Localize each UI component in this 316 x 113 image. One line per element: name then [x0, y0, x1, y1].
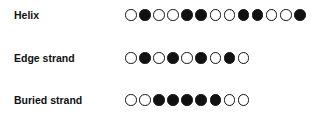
- open-circle-icon: [280, 9, 292, 21]
- open-circle-icon: [153, 9, 165, 21]
- open-circle-icon: [167, 9, 179, 21]
- filled-circle-icon: [153, 94, 165, 106]
- row-label: Edge strand: [14, 51, 75, 65]
- open-circle-icon: [224, 9, 236, 21]
- filled-circle-icon: [195, 52, 207, 64]
- open-circle-icon: [238, 94, 250, 106]
- row-helix: Helix: [0, 8, 316, 22]
- open-circle-icon: [210, 9, 222, 21]
- filled-circle-icon: [195, 9, 207, 21]
- open-circle-icon: [153, 52, 165, 64]
- filled-circle-icon: [210, 94, 222, 106]
- row-buried-strand: Buried strand: [0, 93, 316, 107]
- open-circle-icon: [181, 52, 193, 64]
- filled-circle-icon: [252, 9, 264, 21]
- open-circle-icon: [125, 94, 137, 106]
- open-circle-icon: [139, 94, 151, 106]
- filled-circle-icon: [181, 9, 193, 21]
- open-circle-icon: [238, 52, 250, 64]
- filled-circle-icon: [238, 9, 250, 21]
- residue-pattern: [125, 9, 306, 21]
- filled-circle-icon: [294, 9, 306, 21]
- open-circle-icon: [266, 9, 278, 21]
- residue-pattern: [125, 52, 249, 64]
- filled-circle-icon: [224, 52, 236, 64]
- filled-circle-icon: [181, 94, 193, 106]
- open-circle-icon: [224, 94, 236, 106]
- open-circle-icon: [125, 52, 137, 64]
- row-edge-strand: Edge strand: [0, 51, 316, 65]
- open-circle-icon: [125, 9, 137, 21]
- row-label: Buried strand: [14, 93, 82, 107]
- filled-circle-icon: [167, 52, 179, 64]
- open-circle-icon: [210, 52, 222, 64]
- residue-pattern: [125, 94, 249, 106]
- filled-circle-icon: [139, 52, 151, 64]
- filled-circle-icon: [167, 94, 179, 106]
- filled-circle-icon: [139, 9, 151, 21]
- filled-circle-icon: [195, 94, 207, 106]
- row-label: Helix: [14, 8, 39, 22]
